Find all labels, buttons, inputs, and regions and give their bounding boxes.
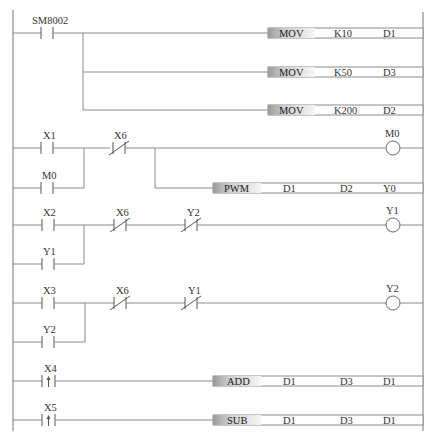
contact-label: Y1 bbox=[43, 246, 56, 257]
operand: D1 bbox=[383, 376, 396, 387]
instruction-box[interactable]: PWM D1 D2 Y0 bbox=[213, 183, 423, 194]
ladder-diagram: SM8002 MOV K10 D1 MOV K50 D3 bbox=[0, 0, 437, 442]
instruction-box[interactable]: MOV K10 D1 bbox=[268, 28, 423, 39]
opcode: MOV bbox=[279, 67, 304, 78]
rung-5: X4 ADD D1 D3 D1 bbox=[13, 363, 423, 387]
rising-edge-contact-icon[interactable] bbox=[42, 375, 55, 387]
operand: K10 bbox=[334, 28, 352, 39]
rung-3: X2 Y1 X6 Y2 Y1 bbox=[13, 205, 423, 270]
operand: D2 bbox=[383, 105, 396, 116]
instruction-box[interactable]: MOV K50 D3 bbox=[268, 67, 423, 78]
operand: D1 bbox=[383, 28, 396, 39]
operand: D3 bbox=[340, 415, 353, 426]
coil-icon[interactable] bbox=[386, 296, 400, 310]
operand: D1 bbox=[383, 415, 396, 426]
coil-icon[interactable] bbox=[386, 218, 400, 232]
no-contact-icon[interactable] bbox=[41, 142, 53, 154]
contact-label: X5 bbox=[44, 402, 57, 413]
opcode: MOV bbox=[279, 105, 304, 116]
no-contact-icon[interactable] bbox=[42, 258, 54, 270]
coil-label: M0 bbox=[385, 128, 400, 139]
contact-label: Y2 bbox=[187, 207, 200, 218]
operand: D3 bbox=[340, 376, 353, 387]
coil-icon[interactable] bbox=[386, 141, 400, 155]
rung-6: X5 SUB D1 D3 D1 bbox=[13, 402, 423, 426]
contact-label: M0 bbox=[42, 170, 57, 181]
contact-label: X6 bbox=[116, 285, 129, 296]
instruction-box[interactable]: MOV K200 D2 bbox=[268, 105, 423, 116]
no-contact-icon[interactable] bbox=[42, 336, 54, 348]
operand: D1 bbox=[283, 415, 296, 426]
no-contact-icon[interactable] bbox=[41, 182, 53, 194]
operand: D2 bbox=[340, 183, 353, 194]
contact-label: SM8002 bbox=[32, 15, 68, 26]
contact-label: X6 bbox=[116, 207, 129, 218]
operand: Y0 bbox=[383, 183, 396, 194]
operand: K50 bbox=[334, 67, 352, 78]
instruction-box[interactable]: SUB D1 D3 D1 bbox=[213, 415, 423, 426]
opcode: ADD bbox=[227, 376, 250, 387]
operand: K200 bbox=[334, 105, 357, 116]
operand: D1 bbox=[283, 183, 296, 194]
instruction-box[interactable]: ADD D1 D3 D1 bbox=[213, 376, 423, 387]
contact-label: X6 bbox=[114, 130, 127, 141]
contact-label: X4 bbox=[44, 363, 58, 374]
coil-label: Y2 bbox=[386, 283, 399, 294]
opcode: SUB bbox=[227, 415, 247, 426]
no-contact-icon[interactable] bbox=[42, 297, 54, 309]
opcode: PWM bbox=[224, 183, 250, 194]
rising-edge-contact-icon[interactable] bbox=[42, 414, 55, 426]
contact-label: Y2 bbox=[43, 324, 56, 335]
rung-4: X3 Y2 X6 Y1 Y2 bbox=[13, 283, 423, 348]
no-contact-icon[interactable] bbox=[41, 27, 53, 39]
opcode: MOV bbox=[279, 28, 304, 39]
no-contact-icon[interactable] bbox=[42, 219, 54, 231]
contact-label: X1 bbox=[43, 130, 56, 141]
rung-2: X1 M0 X6 M0 PWM D1 bbox=[13, 128, 423, 194]
operand: D3 bbox=[383, 67, 396, 78]
rung-1: SM8002 MOV K10 D1 MOV K50 D3 bbox=[13, 15, 423, 116]
contact-label: X3 bbox=[43, 285, 56, 296]
contact-label: X2 bbox=[43, 207, 56, 218]
contact-label: Y1 bbox=[188, 285, 201, 296]
coil-label: Y1 bbox=[386, 205, 399, 216]
operand: D1 bbox=[283, 376, 296, 387]
